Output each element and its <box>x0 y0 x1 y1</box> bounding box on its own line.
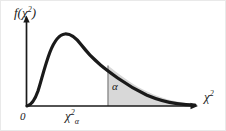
chi-square-figure: f(χ2) χ2 0 χ2α α <box>0 0 226 131</box>
x-axis-label: χ2 <box>204 90 214 103</box>
origin-label: 0 <box>20 111 26 122</box>
critical-value-subscript: α <box>75 117 79 126</box>
critical-value-label: χ2α <box>65 109 79 122</box>
x-axis-label-exponent: 2 <box>210 89 214 98</box>
tail-shaded-region <box>108 66 194 107</box>
y-axis-label-text: f(χ <box>14 5 28 20</box>
y-axis-label-close: ) <box>32 5 36 20</box>
tail-area-label: α <box>112 81 118 92</box>
critical-value-exponent: 2 <box>71 108 75 117</box>
y-axis-label: f(χ2) <box>14 6 36 19</box>
figure-canvas <box>1 1 226 131</box>
